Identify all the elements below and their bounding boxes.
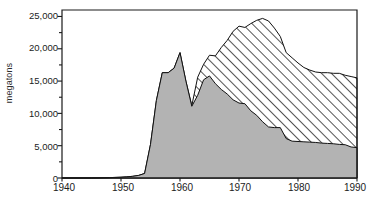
megatons-area-chart: megatons 25,000 20,000 15,000 10,000 5,0… xyxy=(0,0,370,206)
plot-area xyxy=(0,0,370,206)
